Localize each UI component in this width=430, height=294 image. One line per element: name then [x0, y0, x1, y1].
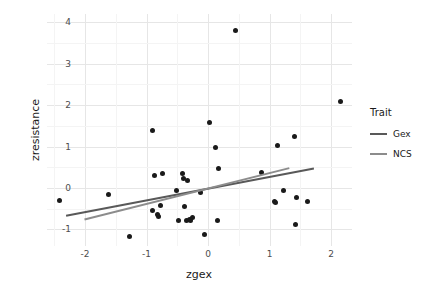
- trend-line-ncs: [85, 168, 290, 219]
- plot-panel: [47, 14, 352, 246]
- trend-lines-layer: [47, 14, 352, 246]
- x-tick-label: 1: [267, 250, 273, 259]
- legend-item-ncs[interactable]: NCS: [370, 146, 428, 162]
- legend-item-label: NCS: [393, 150, 412, 159]
- legend-items: GexNCS: [370, 126, 428, 162]
- legend-item-gex[interactable]: Gex: [370, 126, 428, 142]
- x-tick-label: 0: [205, 250, 211, 259]
- x-tick-label: -2: [81, 250, 90, 259]
- legend-item-label: Gex: [393, 130, 411, 139]
- x-tick-label: -1: [142, 250, 151, 259]
- y-tick-label: 1: [65, 142, 71, 151]
- y-tick-label: 2: [65, 101, 71, 110]
- legend-line-swatch: [370, 153, 387, 155]
- y-tick-label: 3: [65, 59, 71, 68]
- legend-line-swatch: [370, 133, 387, 135]
- y-tick-label: -1: [62, 225, 71, 234]
- y-tick-label: 0: [65, 184, 71, 193]
- y-tick-label: 4: [65, 18, 71, 27]
- y-axis-title: zresistance: [29, 99, 42, 161]
- legend-title: Trait: [370, 108, 428, 118]
- chart-root: 43210-1 -2-1012 zresistance zgex Trait G…: [0, 0, 430, 294]
- x-tick-label: 2: [328, 250, 334, 259]
- x-axis-title: zgex: [186, 268, 212, 281]
- legend: Trait GexNCS: [370, 108, 428, 166]
